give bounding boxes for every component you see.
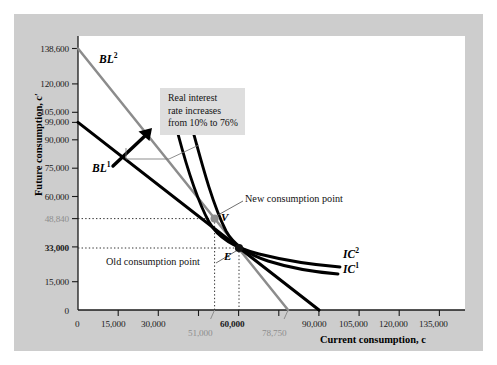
- chart-vector-layer: [0, 0, 497, 365]
- x-axis-title-text: Current consumption, c: [320, 334, 426, 345]
- y-tick-label-60000: 60,000: [11, 192, 69, 202]
- point-label-V: V: [221, 211, 228, 223]
- x-tick-label-90000: 90,000: [302, 319, 326, 329]
- y-tick-marks: [72, 49, 78, 282]
- x-axis-title: Current consumption, c: [320, 334, 426, 345]
- rate-increase-annotation: Real interest rate increases from 10% to…: [160, 88, 245, 135]
- annotation-line-1: Real interest: [168, 92, 238, 105]
- x-tick-label-51000: 51,000: [188, 328, 212, 338]
- x-tick-label-60000: 60,000: [220, 319, 244, 329]
- y-tick-label-0: 0: [11, 306, 69, 316]
- y-tick-label-33000: 33,000: [11, 243, 69, 253]
- series-label-bl1: BL1: [92, 160, 111, 174]
- annotation-line-3: from 10% to 76%: [168, 117, 238, 130]
- x-tick-label-120000: 120,000: [379, 319, 408, 329]
- y-tick-label-120000: 120,000: [11, 79, 69, 89]
- annotation-line-2: rate increases: [168, 105, 238, 118]
- x-tick-label-105000: 105,000: [339, 319, 368, 329]
- budget-line-shift-arrow: [113, 128, 152, 166]
- series-label-bl2: BL2: [99, 51, 118, 65]
- x-tick-label-0: 0: [75, 319, 79, 329]
- x-tick-marks: [118, 310, 439, 316]
- series-label-ic1: IC1: [343, 261, 359, 275]
- y-tick-label-90000: 90,000: [11, 135, 69, 145]
- figure-container: Future consumption, c′ 138,600 120,000 1…: [0, 0, 497, 365]
- series-label-ic2: IC2: [343, 246, 359, 260]
- point-label-E: E: [224, 250, 231, 262]
- point-marker-V[interactable]: [211, 215, 219, 223]
- y-tick-label-75000: 75,000: [11, 163, 69, 173]
- x-tick-label-135000: 135,000: [419, 319, 448, 329]
- y-tick-label-15000: 15,000: [11, 277, 69, 287]
- new-consumption-point-label: New consumption point: [245, 193, 343, 204]
- y-tick-label-48840: 48,840: [11, 214, 69, 224]
- indifference-curve-ic1: [194, 135, 338, 274]
- y-tick-label-99000: 99,000: [11, 117, 69, 127]
- point-marker-E[interactable]: [235, 244, 243, 252]
- old-consumption-point-label: Old consumption point: [106, 256, 200, 267]
- y-tick-label-138600: 138,600: [11, 44, 69, 54]
- x-subtick-marks: [211, 310, 289, 319]
- y-tick-label-105000: 105,000: [11, 107, 69, 117]
- x-tick-label-78750: 78,750: [262, 328, 286, 338]
- axes: [78, 36, 465, 310]
- x-tick-label-15000: 15,000: [101, 319, 125, 329]
- x-tick-label-30000: 30,000: [141, 319, 165, 329]
